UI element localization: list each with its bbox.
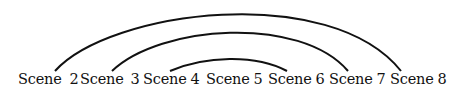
scene-number: 4: [191, 71, 200, 87]
scene-number: 5: [254, 71, 263, 87]
scene-label-7: Scene7: [329, 71, 386, 87]
scene-label-2: Scene2: [18, 71, 79, 87]
scene-label-4: Scene4: [143, 71, 200, 87]
scene-number: 7: [377, 71, 386, 87]
scene-label-8: Scene8: [390, 71, 447, 87]
scene-label-6: Scene6: [268, 71, 325, 87]
scene-number: 3: [131, 71, 140, 87]
arc-scene-4-to-6: [170, 59, 287, 71]
scene-label-5: Scene5: [206, 71, 263, 87]
scene-word: Scene: [80, 71, 124, 87]
scene-word: Scene: [143, 71, 187, 87]
arc-scene-2-to-8: [55, 14, 401, 71]
scene-number: 8: [438, 71, 447, 87]
scene-word: Scene: [329, 71, 373, 87]
scene-arc-diagram: Scene2 Scene3 Scene4 Scene5 Scene6 Scene…: [0, 0, 454, 99]
scene-word: Scene: [18, 71, 62, 87]
scene-word: Scene: [268, 71, 312, 87]
scene-number: 2: [70, 71, 79, 87]
arc-scene-3-to-7: [112, 33, 348, 71]
scene-word: Scene: [390, 71, 434, 87]
scene-number: 6: [316, 71, 325, 87]
scene-word: Scene: [206, 71, 250, 87]
scene-label-3: Scene3: [80, 71, 140, 87]
